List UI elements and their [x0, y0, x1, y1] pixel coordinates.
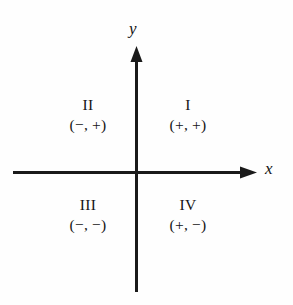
arrow-right-icon: [240, 167, 257, 179]
quadrant-two-label: II (−, +): [36, 95, 140, 136]
quadrant-four-numeral: IV: [136, 195, 240, 215]
quadrant-one-numeral: I: [136, 95, 240, 115]
quadrant-one-label: I (+, +): [136, 95, 240, 136]
y-axis-label: y: [129, 20, 137, 37]
quadrant-four-signs: (+, −): [136, 215, 240, 235]
arrow-up-icon: [131, 46, 143, 62]
quadrant-three-signs: (−, −): [36, 215, 140, 235]
quadrant-one-signs: (+, +): [136, 115, 240, 135]
x-axis-label: x: [265, 160, 273, 177]
quadrant-two-signs: (−, +): [36, 115, 140, 135]
quadrant-three-numeral: III: [36, 195, 140, 215]
quadrant-three-label: III (−, −): [36, 195, 140, 236]
coordinate-plane-figure: y x I (+, +) II (−, +) III (−, −) IV (+,…: [0, 0, 293, 305]
quadrant-four-label: IV (+, −): [136, 195, 240, 236]
axes-graphic: [0, 0, 293, 305]
quadrant-two-numeral: II: [36, 95, 140, 115]
